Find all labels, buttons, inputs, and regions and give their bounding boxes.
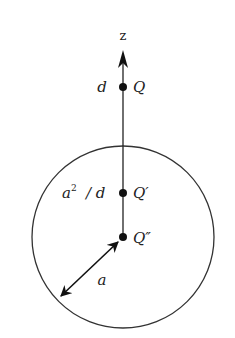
radius-a-label: a <box>98 271 107 289</box>
over-d-label: / d <box>84 184 105 202</box>
a-squared-base: a <box>62 184 71 202</box>
distance-a2-label: a2 <box>62 183 77 202</box>
charge-q-label: Q <box>133 78 145 96</box>
radius-arrow <box>61 242 118 296</box>
charge-q-double-prime-dot <box>119 233 127 241</box>
image-charge-diagram: z d Q a2 / d Q′ Q″ a <box>0 0 235 338</box>
charge-q-double-prime-label: Q″ <box>133 229 151 247</box>
a-squared-exp: 2 <box>71 183 77 193</box>
distance-d-label: d <box>97 78 107 96</box>
charge-q-prime-label: Q′ <box>133 184 149 202</box>
z-axis-label: z <box>120 28 127 43</box>
charge-q-dot <box>119 83 127 91</box>
charge-q-prime-dot <box>119 189 127 197</box>
